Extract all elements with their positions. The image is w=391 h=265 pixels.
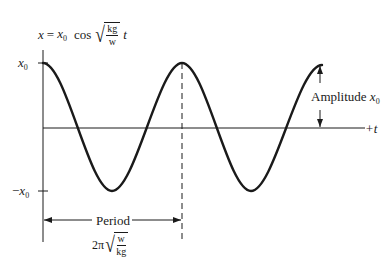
amplitude-label: Amplitude x0 <box>311 90 380 106</box>
equation-func: cos <box>74 28 91 41</box>
equation-frac-num: kg <box>106 24 118 36</box>
amplitude-sub: 0 <box>376 97 380 106</box>
equation-label: x = x0 cos √ kgw t <box>38 22 127 47</box>
y-label-x0-sub: 0 <box>24 63 28 72</box>
equation-lhs: x <box>38 28 44 41</box>
equation-frac-den: w <box>109 36 116 47</box>
period-frac-num: w <box>117 234 126 246</box>
sqrt-icon: √ <box>105 234 115 256</box>
sqrt-icon: √ <box>95 24 105 46</box>
equation-sqrt: √ kgw <box>94 22 120 47</box>
period-formula: 2π √ wkg <box>92 232 128 257</box>
period-frac-den: kg <box>116 246 126 257</box>
y-label-x0: x0 <box>18 56 28 72</box>
period-prefix: 2π <box>92 239 104 251</box>
amplitude-text: Amplitude <box>311 89 367 104</box>
equation-amp-sub: 0 <box>63 34 67 43</box>
y-label-neg-x0: −x0 <box>12 184 29 200</box>
equation-var: t <box>123 28 127 41</box>
period-sqrt: √ wkg <box>104 232 128 257</box>
equation-amp: x0 <box>57 27 67 43</box>
x-axis-label: +t <box>365 122 377 135</box>
y-label-neg-sub: 0 <box>25 191 29 200</box>
period-label: Period <box>96 214 130 227</box>
equation-equals: = <box>47 28 54 41</box>
equation-fraction: kgw <box>106 24 118 47</box>
period-fraction: wkg <box>116 234 126 257</box>
